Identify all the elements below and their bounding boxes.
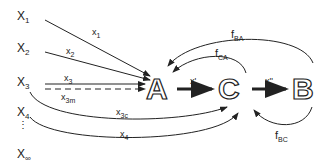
label-x4: x4 (120, 130, 128, 141)
ellipsis: ⋮ (18, 120, 28, 130)
edge-x4 (30, 113, 238, 138)
label-xdprime: x'' (265, 77, 273, 86)
input-x2: X2 (17, 42, 29, 57)
label-x2: x2 (66, 47, 74, 58)
label-fBA: fBA (231, 29, 243, 42)
edge-x2 (45, 52, 150, 80)
edge-x3c (30, 92, 227, 119)
node-B: B (292, 74, 314, 104)
input-x1: X1 (17, 10, 29, 25)
label-x3: x3 (64, 74, 72, 85)
label-x1: x1 (92, 28, 100, 39)
input-x3: X3 (17, 76, 29, 91)
label-fCA: fCA (215, 48, 228, 61)
edge-fCA (173, 56, 246, 73)
input-xinf: X∞ (17, 148, 31, 163)
node-C: C (218, 74, 240, 104)
label-fBC: fBC (275, 130, 288, 143)
node-A: A (146, 74, 168, 104)
label-x3m: x3m (61, 93, 75, 104)
edge-fBC (254, 107, 312, 125)
label-xprime: x' (190, 77, 196, 86)
label-x3c: x3c (116, 108, 128, 119)
